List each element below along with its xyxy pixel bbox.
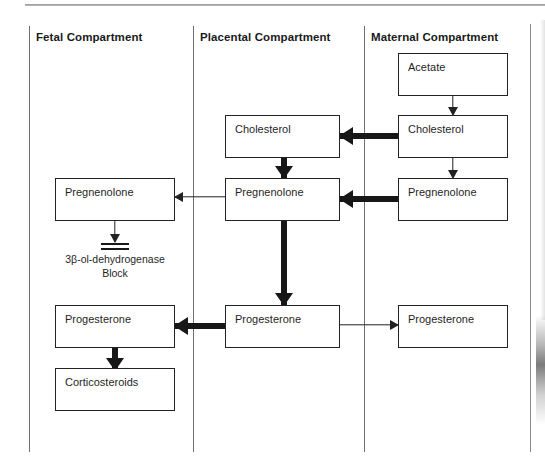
node-maternal-cholesterol: Cholesterol — [398, 115, 508, 158]
compartment-divider-placental-maternal — [364, 26, 365, 452]
node-fetal-pregnenolone: Pregnenolone — [55, 178, 175, 221]
enzyme-block-label-line2: Block — [102, 267, 128, 279]
arrow-fetal-pregnenolone-to-block — [108, 221, 122, 242]
compartment-divider-maternal-right — [530, 24, 531, 452]
diagram-canvas: Fetal Compartment Placental Compartment … — [0, 0, 545, 473]
arrow-acetate-to-cholesterol — [446, 96, 460, 115]
enzyme-block-label-line1: 3β-ol-dehydrogenase — [65, 253, 164, 265]
arrow-placental-cholesterol-to-pregnenolone — [275, 158, 293, 178]
top-rule-divider — [25, 4, 545, 6]
compartment-divider-fetal-left — [29, 26, 30, 452]
arrow-placental-to-maternal-progesterone — [340, 320, 398, 330]
node-fetal-corticosteroids: Corticosteroids — [55, 368, 175, 411]
arrow-placental-pregnenolone-to-progesterone — [275, 221, 293, 305]
arrow-fetal-progesterone-to-corticosteroids — [106, 348, 124, 370]
arrow-maternal-to-placental-cholesterol — [340, 127, 398, 145]
enzyme-block-label: 3β-ol-dehydrogenase Block — [40, 253, 190, 281]
node-maternal-progesterone: Progesterone — [398, 305, 508, 348]
node-fetal-progesterone: Progesterone — [55, 305, 175, 348]
node-placental-pregnenolone: Pregnenolone — [225, 178, 340, 221]
enzyme-block-symbol — [101, 243, 129, 251]
scan-artifact-edge — [540, 20, 545, 320]
column-header-placental: Placental Compartment — [200, 31, 331, 43]
arrow-placental-to-fetal-pregnenolone — [175, 192, 225, 202]
compartment-divider-fetal-placental — [193, 26, 194, 452]
column-header-maternal: Maternal Compartment — [371, 31, 498, 43]
arrow-placental-to-fetal-progesterone — [175, 317, 225, 335]
node-maternal-acetate: Acetate — [398, 53, 508, 96]
node-placental-cholesterol: Cholesterol — [225, 115, 340, 158]
node-maternal-pregnenolone: Pregnenolone — [398, 178, 508, 221]
scan-artifact-smudge — [536, 315, 545, 425]
node-placental-progesterone: Progesterone — [225, 305, 340, 348]
column-header-fetal: Fetal Compartment — [36, 31, 143, 43]
arrow-maternal-to-placental-pregnenolone — [340, 190, 398, 208]
arrow-cholesterol-to-pregnenolone — [446, 158, 460, 178]
